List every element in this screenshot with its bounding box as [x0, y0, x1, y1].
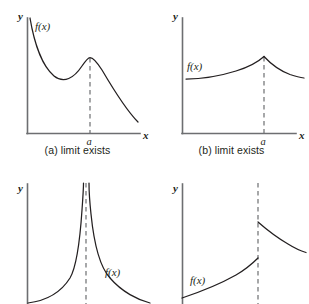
panel-d-function-label: f(x): [190, 274, 206, 287]
panel-a-x-axis-label: x: [142, 129, 149, 141]
panel-c: y f(x): [0, 180, 155, 304]
panel-a-caption: (a) limit exists: [0, 144, 155, 156]
panel-b-function-label: f(x): [187, 60, 203, 73]
panel-b-caption: (b) limit exists: [154, 144, 309, 156]
panel-c-y-axis-label: y: [16, 182, 23, 194]
panel-d: y f(x): [154, 180, 309, 304]
panel-c-function-label: f(x): [105, 266, 121, 279]
panel-b: y x a f(x) (b) limit exists: [154, 0, 309, 152]
figure-sheet: y x a f(x) (a) limit exists y x a f(x) (…: [0, 0, 309, 304]
panel-d-y-axis-label: y: [171, 182, 178, 194]
panel-a-y-axis-label: y: [16, 10, 23, 22]
panel-a: y x a f(x) (a) limit exists: [0, 0, 155, 152]
panel-b-x-axis-label: x: [298, 129, 305, 141]
panel-a-function-label: f(x): [35, 20, 51, 33]
panel-b-y-axis-label: y: [171, 10, 178, 22]
